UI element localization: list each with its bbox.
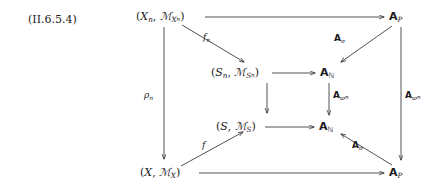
node-top-left-sheaf: ℳ [160, 10, 172, 23]
arrow-label-a-sigma-top: Aσ [334, 34, 345, 44]
node-mid-lower-left-base: S [220, 120, 228, 133]
node-top-left: (Xn, ℳXn) [136, 11, 184, 23]
node-bottom-left-close: ) [176, 166, 180, 179]
arrow-label-a-varpi-n-mid-subsub: n [345, 94, 349, 100]
arrow-label-a-sigma-bottom-sub: σ [359, 144, 363, 151]
arrow-label-a-sigma-top-sub: σ [341, 37, 345, 44]
node-bottom-left-base: X [144, 166, 152, 179]
node-mid-upper-right-sub: ℕ [329, 71, 335, 80]
node-mid-lower-right-sub: ℕ [328, 125, 334, 134]
node-mid-lower-left-close: ) [251, 120, 255, 133]
node-mid-lower-right-letter: A [319, 120, 328, 133]
node-bottom-left: (X, ℳX) [140, 167, 180, 179]
arrow-label-rho-n: ρn [144, 91, 153, 101]
arrow-label-f-symbol: f [202, 140, 205, 150]
edge-diagonal-f-n [182, 25, 244, 62]
node-mid-upper-right-letter: A [320, 66, 329, 79]
node-mid-lower-left-sheaf: ℳ [235, 120, 247, 133]
node-mid-lower-right: Aℕ [319, 121, 333, 133]
node-top-right-sub: P [398, 15, 403, 24]
node-mid-upper-left-close: ) [255, 66, 259, 79]
arrow-label-rho-n-sub: n [149, 94, 153, 101]
node-top-left-base: X [140, 10, 148, 23]
node-bottom-left-sheaf: ℳ [159, 166, 171, 179]
edge-diagonal-f [181, 132, 243, 166]
diagram-arrows [0, 0, 433, 190]
node-bottom-right-sub: P [398, 171, 403, 180]
arrow-label-a-sigma-bottom-letter: A [352, 140, 359, 150]
node-mid-upper-left-base: S [215, 66, 223, 79]
node-bottom-right-letter: A [389, 166, 398, 179]
node-top-right: AP [389, 11, 402, 23]
arrow-label-a-varpi-n-right-subsub: n [417, 94, 421, 100]
arrow-label-a-varpi-n-mid: Aϖn [333, 91, 348, 101]
node-bottom-right: AP [389, 167, 402, 179]
arrow-label-f: f [202, 141, 205, 151]
arrow-label-f-n: fn [203, 33, 210, 43]
arrow-label-a-sigma-top-letter: A [334, 33, 341, 43]
arrow-label-a-varpi-n-mid-letter: A [333, 90, 340, 100]
node-top-right-letter: A [389, 10, 398, 23]
node-mid-upper-left-sheaf: ℳ [234, 66, 246, 79]
arrow-label-f-n-sub: n [206, 36, 210, 43]
arrow-label-a-varpi-n-right: Aϖn [405, 91, 420, 101]
edge-diagonal-a-sigma-bottom [341, 134, 392, 165]
node-top-left-close: ) [180, 10, 184, 23]
edge-diagonal-a-sigma-top [341, 26, 392, 62]
node-mid-lower-left: (S, ℳS) [216, 121, 256, 133]
arrow-label-a-sigma-bottom: Aσ [352, 141, 363, 151]
node-mid-lower-left-comma: , [228, 120, 235, 133]
node-mid-upper-right: Aℕ [320, 67, 334, 79]
arrow-label-a-varpi-n-right-letter: A [405, 90, 412, 100]
node-mid-upper-left: (Sn, ℳSn) [211, 67, 259, 79]
node-top-left-comma: , [153, 10, 160, 23]
figure-canvas: (II.6.5.4) [0, 0, 433, 190]
